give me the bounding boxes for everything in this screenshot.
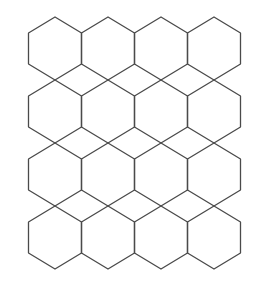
hexagon-r4-c1: [29, 206, 82, 269]
hexagon-r3-c4: [188, 143, 241, 206]
hexagon-r1-c3: [135, 17, 188, 80]
hexagon-r1-c2: [82, 17, 135, 80]
hexagon-r3-c2: [82, 143, 135, 206]
hexagon-grid: [0, 0, 261, 288]
hexagon-r3-c3: [135, 143, 188, 206]
hexagon-r3-c1: [29, 143, 82, 206]
hexagon-r2-c2: [82, 80, 135, 143]
hexagon-r1-c4: [188, 17, 241, 80]
hexagon-r2-c3: [135, 80, 188, 143]
hexagon-r2-c4: [188, 80, 241, 143]
hexagon-r1-c1: [29, 17, 82, 80]
hexagon-r4-c4: [188, 206, 241, 269]
hexagon-r2-c1: [29, 80, 82, 143]
hexagon-layer: [29, 17, 241, 269]
hexagon-r4-c2: [82, 206, 135, 269]
hexagon-r4-c3: [135, 206, 188, 269]
